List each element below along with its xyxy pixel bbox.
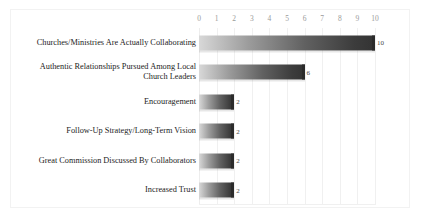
x-tick-label-10: 10 xyxy=(371,13,379,25)
bar-container: 6 xyxy=(199,65,310,80)
category-label: Encouragement xyxy=(21,97,196,108)
x-tick-label-3: 3 xyxy=(250,13,254,25)
bar-row: Great Commission Discussed By Collaborat… xyxy=(0,146,424,176)
category-label: Authentic Relationships Pursued Among Lo… xyxy=(21,62,196,83)
bar[interactable] xyxy=(199,94,234,109)
bar-container: 2 xyxy=(199,94,240,109)
x-tick-label-9: 9 xyxy=(356,13,360,25)
bar-row: Increased Trust2 xyxy=(0,176,424,206)
category-label: Increased Trust xyxy=(21,185,196,196)
bar-value-label: 2 xyxy=(236,185,240,195)
bar-container: 2 xyxy=(199,124,240,139)
category-label: Great Commission Discussed By Collaborat… xyxy=(21,156,196,167)
bar-row: Encouragement2 xyxy=(0,87,424,117)
bar-container: 10 xyxy=(199,35,384,50)
x-axis-tick-labels: 012345678910 xyxy=(199,13,375,27)
x-tick-label-1: 1 xyxy=(215,13,219,25)
x-tick-label-8: 8 xyxy=(338,13,342,25)
bar[interactable] xyxy=(199,35,375,50)
bar-value-label: 2 xyxy=(236,126,240,136)
bar-value-label: 6 xyxy=(307,67,311,77)
x-tick-label-7: 7 xyxy=(320,13,324,25)
x-tick-label-5: 5 xyxy=(285,13,289,25)
bar-container: 2 xyxy=(199,153,240,168)
bar[interactable] xyxy=(199,183,234,198)
bar-row: Churches/Ministries Are Actually Collabo… xyxy=(0,28,424,58)
bar-rows: Churches/Ministries Are Actually Collabo… xyxy=(0,28,424,205)
x-tick-label-0: 0 xyxy=(197,13,201,25)
bar-value-label: 2 xyxy=(236,156,240,166)
bar[interactable] xyxy=(199,153,234,168)
bar-row: Authentic Relationships Pursued Among Lo… xyxy=(0,58,424,88)
bar-value-label: 2 xyxy=(236,97,240,107)
x-tick-label-4: 4 xyxy=(268,13,272,25)
x-tick-label-6: 6 xyxy=(303,13,307,25)
x-tick-label-2: 2 xyxy=(232,13,236,25)
category-label: Follow-Up Strategy/Long-Term Vision xyxy=(21,126,196,137)
bar-value-label: 10 xyxy=(377,38,384,48)
bar[interactable] xyxy=(199,65,305,80)
bar[interactable] xyxy=(199,124,234,139)
bar-row: Follow-Up Strategy/Long-Term Vision2 xyxy=(0,117,424,147)
bar-chart: 012345678910 Churches/Ministries Are Act… xyxy=(0,0,424,222)
category-label: Churches/Ministries Are Actually Collabo… xyxy=(21,38,196,49)
bar-container: 2 xyxy=(199,183,240,198)
